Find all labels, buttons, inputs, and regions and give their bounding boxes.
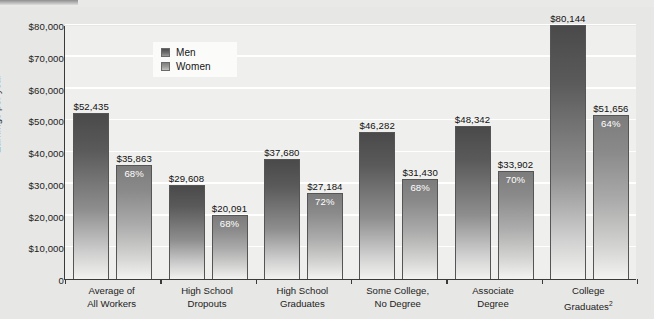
plot-area: $52,435$35,86368%$29,608$20,09168%$37,68…: [64, 26, 636, 280]
y-axis-tick-label: $60,000: [0, 84, 64, 95]
bar-percent-label: 72%: [315, 196, 335, 207]
y-axis-tick-label: $20,000: [0, 211, 64, 222]
bar-value-label: $31,430: [402, 167, 437, 178]
bar-value-label: $51,656: [593, 103, 628, 114]
legend-item-men: Men: [161, 47, 211, 58]
bar-value-label: $35,863: [116, 153, 151, 164]
bar-value-label: $52,435: [73, 101, 108, 112]
bar-men: $48,342: [455, 126, 491, 279]
y-axis-tick-label: $10,000: [0, 243, 64, 254]
bar-men: $29,608: [169, 185, 205, 279]
bar-women: $27,18472%: [307, 193, 343, 279]
x-axis-tick: [160, 279, 161, 284]
x-axis-tick: [446, 279, 447, 284]
x-axis-tick: [351, 279, 352, 284]
bar-women: $35,86368%: [116, 165, 152, 279]
bar-men: $80,144: [550, 25, 586, 279]
bar-value-label: $48,342: [455, 114, 490, 125]
bar-value-label: $46,282: [359, 120, 394, 131]
bar-percent-label: 68%: [410, 182, 430, 193]
chart-legend: Men Women: [153, 42, 237, 77]
bar-value-label: $27,184: [307, 181, 342, 192]
y-axis-tick-label: $50,000: [0, 116, 64, 127]
y-axis-tick-label: 0: [0, 275, 64, 286]
x-axis-category-label: High SchoolGraduates: [276, 285, 328, 310]
x-axis-tick: [637, 279, 638, 284]
bar-value-label: $80,144: [550, 13, 585, 24]
y-axis-tick-label: $70,000: [0, 52, 64, 63]
bar-men: $37,680: [264, 159, 300, 279]
plot-inner: $52,435$35,86368%$29,608$20,09168%$37,68…: [65, 26, 636, 279]
bar-value-label: $20,091: [212, 203, 247, 214]
bar-men: $46,282: [359, 132, 395, 279]
bar-women: $31,43068%: [402, 179, 438, 279]
x-axis-category-label: AssociateDegree: [472, 285, 514, 310]
bar-women: $33,90270%: [498, 171, 534, 279]
men-swatch-icon: [161, 48, 170, 57]
bar-women: $51,65664%: [593, 115, 629, 279]
x-axis-category-label: Some College,No Degree: [366, 285, 429, 310]
bar-value-label: $37,680: [264, 147, 299, 158]
top-edge-artifact: [0, 0, 78, 5]
bar-percent-label: 68%: [124, 168, 144, 179]
legend-label-women: Women: [176, 61, 211, 72]
bar-value-label: $33,902: [498, 159, 533, 170]
y-axis-tick-label: $80,000: [0, 21, 64, 32]
x-axis-category-label: Average ofAll Workers: [87, 285, 136, 310]
x-axis-tick: [256, 279, 257, 284]
bar-percent-label: 64%: [601, 118, 621, 129]
x-axis-tick: [542, 279, 543, 284]
x-axis-tick: [65, 279, 66, 284]
y-axis-tick-label: $40,000: [0, 148, 64, 159]
y-axis-tick-label: $30,000: [0, 179, 64, 190]
bar-women: $20,09168%: [212, 215, 248, 279]
bar-men: $52,435: [73, 113, 109, 279]
legend-item-women: Women: [161, 61, 211, 72]
bar-value-label: $29,608: [169, 173, 204, 184]
x-axis-category-label: CollegeGraduates2: [564, 285, 612, 313]
bar-percent-label: 68%: [220, 218, 240, 229]
women-swatch-icon: [161, 62, 170, 71]
earnings-by-education-bar-chart: Earnings per year $80,000$70,000$60,000$…: [0, 7, 654, 319]
legend-label-men: Men: [176, 47, 196, 58]
x-axis-category-label: High SchoolDropouts: [181, 285, 233, 310]
bar-percent-label: 70%: [506, 174, 526, 185]
